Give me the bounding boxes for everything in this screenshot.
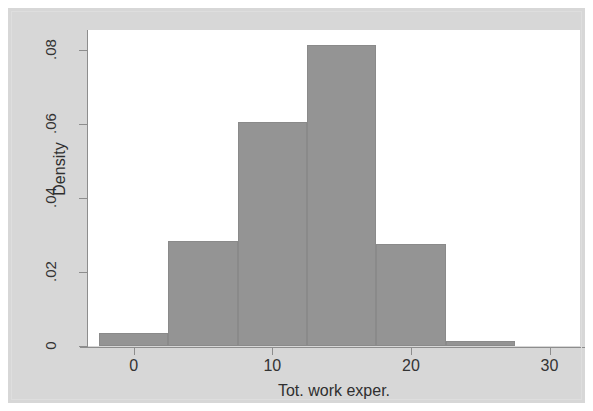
x-tick-label: 20 <box>389 357 433 375</box>
x-tick-label: 10 <box>250 357 294 375</box>
histogram-bar <box>238 122 307 346</box>
histogram-screenshot: 0.02.04.06.08 0102030 Density Tot. work … <box>0 0 593 411</box>
histogram-bars <box>88 30 580 346</box>
histogram-bar <box>168 241 237 346</box>
y-axis-line <box>87 30 88 348</box>
y-tick-mark <box>79 198 87 199</box>
histogram-bar <box>99 333 168 346</box>
x-tick-mark <box>272 348 273 355</box>
histogram-bar <box>446 341 515 346</box>
y-tick-mark <box>79 346 87 347</box>
x-tick-label: 0 <box>112 357 156 375</box>
x-axis-title: Tot. work exper. <box>88 382 580 400</box>
graph-region: 0.02.04.06.08 0102030 Density Tot. work … <box>8 8 585 403</box>
y-tick-label: .08 <box>42 30 59 70</box>
x-axis-line <box>80 347 585 348</box>
y-tick-label: .02 <box>42 252 59 292</box>
y-tick-label: 0 <box>42 326 59 366</box>
y-tick-mark <box>79 124 87 125</box>
histogram-bar <box>376 244 445 346</box>
x-tick-label: 30 <box>528 357 572 375</box>
x-tick-mark <box>550 348 551 355</box>
histogram-bar <box>307 45 376 346</box>
y-tick-mark <box>79 272 87 273</box>
y-tick-mark <box>79 50 87 51</box>
x-tick-mark <box>411 348 412 355</box>
x-tick-mark <box>134 348 135 355</box>
plot-area <box>88 30 580 346</box>
y-axis-title: Density <box>51 114 69 224</box>
